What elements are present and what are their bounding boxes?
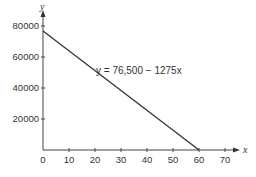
svg-text:40: 40 [142, 154, 153, 165]
svg-text:20000: 20000 [13, 113, 39, 124]
svg-text:20: 20 [90, 154, 101, 165]
svg-text:0: 0 [40, 154, 45, 165]
svg-text:50: 50 [168, 154, 179, 165]
svg-text:70: 70 [220, 154, 231, 165]
svg-text:60000: 60000 [13, 51, 39, 62]
svg-text:30: 30 [116, 154, 127, 165]
y-axis-label: y [39, 1, 45, 12]
svg-text:80000: 80000 [13, 20, 39, 31]
x-axis-arrow-icon [233, 148, 240, 153]
svg-text:60: 60 [194, 154, 205, 165]
y-tick-labels: 20000 40000 60000 80000 [13, 20, 39, 124]
svg-text:40000: 40000 [13, 82, 39, 93]
x-tick-labels: 0 10 20 30 40 50 60 70 [40, 154, 230, 165]
svg-text:10: 10 [64, 154, 75, 165]
x-axis-label: x [242, 144, 248, 155]
equation-annotation: y = 76,500 − 1275x [96, 65, 182, 76]
chart: y x 0 10 20 30 40 50 60 70 20000 40000 6… [0, 0, 256, 177]
data-line [43, 31, 199, 150]
